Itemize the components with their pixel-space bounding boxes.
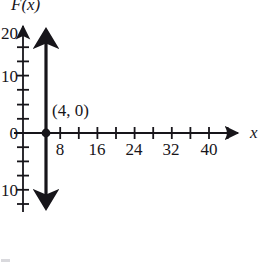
x-tick-label-16: 16 xyxy=(82,141,112,158)
x-tick-label-24: 24 xyxy=(119,141,149,158)
y-tick-label-10: 10 xyxy=(0,68,18,85)
x-tick-label-40: 40 xyxy=(194,141,224,158)
scan-artifact xyxy=(1,259,10,262)
point-marker-4-0 xyxy=(42,129,51,138)
function-label: F(x) xyxy=(11,0,40,13)
graph-figure: F(x) 20 10 0 10 8 16 24 32 40 x (4, 0) xyxy=(0,0,274,265)
x-tick-label-8: 8 xyxy=(45,141,75,158)
y-tick-label-negative-10: 10 xyxy=(0,182,18,199)
point-annotation-label: (4, 0) xyxy=(52,102,89,119)
x-tick-label-32: 32 xyxy=(156,141,186,158)
y-tick-label-20: 20 xyxy=(0,25,18,42)
x-axis-name: x xyxy=(250,124,258,141)
coordinate-plane-svg xyxy=(0,0,274,265)
y-tick-label-0: 0 xyxy=(0,125,18,142)
